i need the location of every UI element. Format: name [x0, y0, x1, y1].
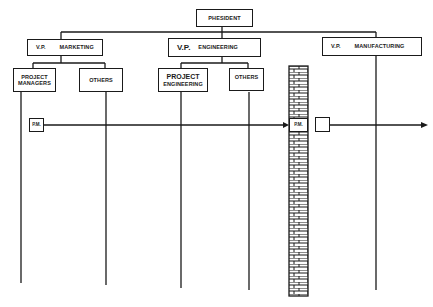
project-engineering-box: PROJECT ENGINEERING — [158, 68, 208, 92]
project-engineering-line1: PROJECT — [166, 73, 199, 81]
engineering-others-label: OTHERS — [235, 74, 259, 80]
vp-marketing-dept: MARKETING — [60, 44, 94, 50]
handoff-empty-box — [315, 117, 330, 132]
project-managers-box: PROJECT MANAGERS — [13, 68, 56, 92]
vp-engineering-box: V.P. ENGINEERING — [168, 38, 261, 57]
brick-wall — [289, 66, 308, 296]
vp-engineering-prefix: V.P. — [177, 43, 190, 52]
engineering-others-box: OTHERS — [229, 68, 264, 91]
project-managers-line2: MANAGERS — [18, 80, 51, 86]
vp-marketing-prefix: V.P. — [36, 44, 46, 50]
marketing-others-label: OTHERS — [89, 77, 113, 83]
vp-engineering-dept: ENGINEERING — [198, 44, 238, 50]
vp-manufacturing-box: V.P. MANUFACTURING — [322, 37, 422, 56]
pm-wall-label: P.M. — [294, 122, 303, 127]
pm-start-label: P.M. — [32, 122, 41, 127]
project-engineering-line2: ENGINEERING — [163, 81, 203, 87]
marketing-others-box: OTHERS — [79, 68, 123, 92]
pm-wall-box: P.M. — [289, 118, 308, 132]
vp-manufacturing-dept: MANUFACTURING — [355, 43, 405, 49]
pm-start-box: P.M. — [29, 118, 44, 132]
president-label: PHESIDENT — [208, 15, 240, 21]
president-box: PHESIDENT — [196, 9, 253, 27]
vp-marketing-box: V.P. MARKETING — [27, 39, 103, 56]
vp-manufacturing-prefix: V.P. — [331, 43, 341, 49]
